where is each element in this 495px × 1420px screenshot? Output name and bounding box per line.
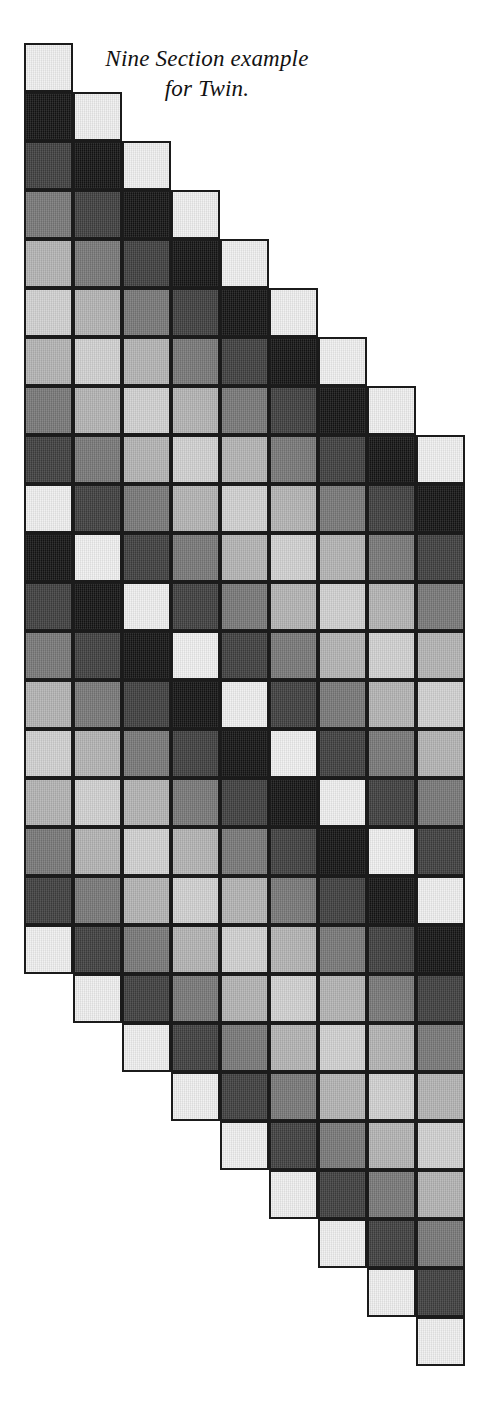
quilt-cell [269, 729, 318, 778]
quilt-cell [367, 484, 416, 533]
quilt-cell [318, 876, 367, 925]
quilt-cell [416, 1072, 465, 1121]
quilt-cell [416, 729, 465, 778]
quilt-cell [318, 1219, 367, 1268]
quilt-cell [416, 582, 465, 631]
quilt-cell [416, 827, 465, 876]
quilt-cell [220, 827, 269, 876]
quilt-cell [416, 435, 465, 484]
quilt-cell [416, 1170, 465, 1219]
quilt-cell [24, 190, 73, 239]
quilt-cell [269, 435, 318, 484]
quilt-cell [318, 925, 367, 974]
quilt-cell [220, 680, 269, 729]
quilt-cell [24, 827, 73, 876]
quilt-cell [122, 239, 171, 288]
quilt-cell [220, 1023, 269, 1072]
quilt-cell [73, 925, 122, 974]
quilt-cell [24, 582, 73, 631]
quilt-cell [171, 435, 220, 484]
quilt-cell [220, 778, 269, 827]
quilt-cell [220, 239, 269, 288]
quilt-cell [220, 288, 269, 337]
quilt-cell [367, 1170, 416, 1219]
quilt-cell [367, 729, 416, 778]
quilt-cell [269, 876, 318, 925]
quilt-cell [416, 778, 465, 827]
quilt-cell [416, 1317, 465, 1366]
quilt-cell [122, 141, 171, 190]
quilt-cell [73, 141, 122, 190]
quilt-cell [122, 1023, 171, 1072]
quilt-cell [367, 1219, 416, 1268]
quilt-cell [171, 1023, 220, 1072]
quilt-cell [73, 533, 122, 582]
quilt-cell [269, 386, 318, 435]
quilt-cell [73, 337, 122, 386]
quilt-cell [269, 925, 318, 974]
quilt-cell [367, 974, 416, 1023]
quilt-cell [24, 680, 73, 729]
quilt-cell [122, 827, 171, 876]
quilt-cell [318, 1170, 367, 1219]
quilt-cell [416, 680, 465, 729]
quilt-cell [171, 974, 220, 1023]
quilt-cell [367, 631, 416, 680]
quilt-cell [171, 1072, 220, 1121]
quilt-cell [24, 484, 73, 533]
quilt-cell [269, 582, 318, 631]
quilt-cell [269, 631, 318, 680]
quilt-cell [269, 827, 318, 876]
quilt-cell [220, 876, 269, 925]
quilt-cell [318, 582, 367, 631]
quilt-cell [367, 827, 416, 876]
quilt-cell [24, 239, 73, 288]
quilt-cell [220, 533, 269, 582]
quilt-cell [269, 974, 318, 1023]
quilt-cell [367, 876, 416, 925]
quilt-cell [73, 582, 122, 631]
quilt-cell [171, 631, 220, 680]
quilt-cell [269, 1121, 318, 1170]
quilt-cell [73, 729, 122, 778]
quilt-cell [416, 1121, 465, 1170]
quilt-cell [171, 533, 220, 582]
quilt-cell [269, 288, 318, 337]
quilt-cell [122, 533, 171, 582]
quilt-cell [73, 631, 122, 680]
quilt-cell [24, 631, 73, 680]
quilt-cell [318, 974, 367, 1023]
quilt-cell [24, 141, 73, 190]
quilt-cell [171, 190, 220, 239]
quilt-cell [367, 1023, 416, 1072]
quilt-cell [269, 680, 318, 729]
quilt-cell [73, 288, 122, 337]
quilt-cell [318, 827, 367, 876]
quilt-cell [367, 435, 416, 484]
quilt-cell [171, 484, 220, 533]
quilt-cell [24, 337, 73, 386]
quilt-cell [269, 337, 318, 386]
quilt-cell [318, 778, 367, 827]
quilt-cell [416, 484, 465, 533]
quilt-cell [367, 778, 416, 827]
quilt-cell [220, 337, 269, 386]
quilt-cell [122, 925, 171, 974]
quilt-cell [318, 1121, 367, 1170]
quilt-cell [416, 974, 465, 1023]
quilt-cell [171, 778, 220, 827]
quilt-cell [24, 925, 73, 974]
quilt-cell [24, 729, 73, 778]
quilt-cell [367, 533, 416, 582]
quilt-cell [367, 1121, 416, 1170]
quilt-cell [318, 1023, 367, 1072]
quilt-cell [171, 239, 220, 288]
quilt-cell [73, 190, 122, 239]
quilt-cell [318, 337, 367, 386]
quilt-cell [73, 827, 122, 876]
quilt-cell [220, 631, 269, 680]
quilt-cell [122, 729, 171, 778]
quilt-cell [24, 92, 73, 141]
quilt-cell [122, 337, 171, 386]
quilt-cell [416, 1268, 465, 1317]
